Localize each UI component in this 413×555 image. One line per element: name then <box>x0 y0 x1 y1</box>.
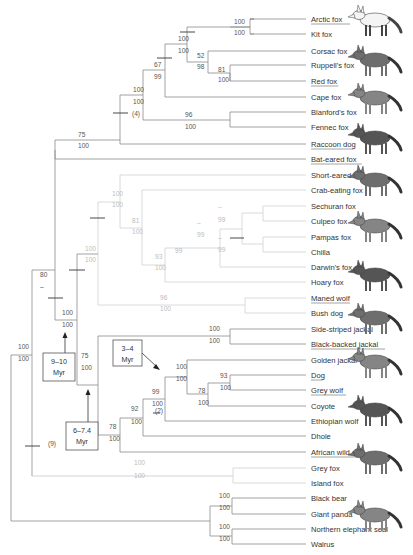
calibration-ticks <box>25 32 244 446</box>
taxon-label: Coyote <box>311 402 335 411</box>
bootstrap-value: 100 <box>85 256 96 263</box>
bootstrap-value: – <box>218 234 222 241</box>
taxon-label: Ethiopian wolf <box>311 417 359 426</box>
bootstrap-value: 99 <box>218 216 226 223</box>
date-unit: Myr <box>76 437 89 446</box>
bootstrap-value: 93 <box>155 253 163 260</box>
taxon-label: Northern elephant seal <box>311 525 388 534</box>
bootstrap-value: 100 <box>109 435 120 442</box>
bootstrap-value: 75 <box>78 131 86 138</box>
bat-eared-fox-illustration <box>348 123 401 154</box>
taxon-label: Dhole <box>311 432 331 441</box>
date-boxes: 9–10Myr6–7.4Myr3–4Myr <box>43 340 142 450</box>
bootstrap-value: 96 <box>160 294 168 301</box>
taxon-label: Culpeo fox <box>311 217 348 226</box>
taxon-label: Walrus <box>311 540 335 549</box>
bootstrap-value: 100 <box>209 325 220 332</box>
bootstrap-value: 100 <box>234 18 245 25</box>
taxon-label: Arctic fox <box>311 15 342 24</box>
bootstrap-value: 78 <box>109 423 117 430</box>
bootstrap-value: 99 <box>152 388 160 395</box>
taxon-label: Grey fox <box>311 464 340 473</box>
taxon-label: Bush dog <box>311 309 343 318</box>
date-range: 3–4 <box>122 344 134 353</box>
bootstrap-value: 100 <box>112 190 123 197</box>
bootstrap-value: 100 <box>219 504 230 511</box>
bootstrap-value: – <box>40 283 44 290</box>
taxon-label: Crab-eating fox <box>311 186 363 195</box>
bootstrap-value: 100 <box>160 305 171 312</box>
bootstrap-value: 92 <box>131 405 139 412</box>
taxon-label: Chilla <box>311 248 331 257</box>
bootstrap-value: 78 <box>198 387 206 394</box>
bootstrap-value: 52 <box>197 52 205 59</box>
bootstrap-value: 100 <box>234 29 245 36</box>
bootstrap-value: 100 <box>134 472 145 479</box>
bootstrap-value: 99 <box>218 246 226 253</box>
red-fox-illustration <box>348 45 401 76</box>
taxon-label: Bat-eared fox <box>311 155 357 164</box>
bootstrap-value: 67 <box>154 61 162 68</box>
bootstrap-value: (9) <box>48 440 56 448</box>
date-range: 9–10 <box>51 357 67 366</box>
bootstrap-value: 100 <box>209 337 220 344</box>
taxon-label: Pampas fox <box>311 233 351 242</box>
bootstrap-value: 100 <box>220 384 231 391</box>
animal-illustrations <box>348 5 401 531</box>
bootstrap-value: 100 <box>133 98 144 105</box>
bootstrap-value: 100 <box>219 523 230 530</box>
date-range: 6–7.4 <box>73 426 91 435</box>
taxon-label: Red fox <box>311 77 337 86</box>
taxon-label: Grey wolf <box>311 386 344 395</box>
bootstrap-value: 100 <box>62 309 73 316</box>
taxon-label: Black-backed jackal <box>311 340 378 349</box>
date-unit: Myr <box>53 368 66 377</box>
taxon-label: Sechuran fox <box>311 202 356 211</box>
divergence-date-box: 6–7.4Myr <box>66 422 98 450</box>
bootstrap-value: – <box>218 203 222 210</box>
bootstrap-value: 100 <box>78 142 89 149</box>
taxon-label: Giant panda <box>311 510 353 519</box>
taxon-label: Black bear <box>311 494 347 503</box>
bootstrap-value: 100 <box>132 228 143 235</box>
divergence-date-box: 9–10Myr <box>43 353 75 381</box>
bootstrap-value: 100 <box>133 86 144 93</box>
taxon-label: Island fox <box>311 479 344 488</box>
tree-branches <box>11 19 306 544</box>
bootstrap-value: 100 <box>218 76 229 83</box>
bootstrap-value: 98 <box>197 63 205 70</box>
bootstrap-value: 100 <box>112 201 123 208</box>
bootstrap-value: 100 <box>176 375 187 382</box>
bush-dog-illustration <box>348 260 401 291</box>
taxon-label: Ruppell's fox <box>311 61 354 70</box>
bootstrap-value: 99 <box>175 247 183 254</box>
bootstrap-value: 100 <box>198 399 209 406</box>
taxon-label: Side-striped jackal <box>311 325 373 334</box>
bootstrap-value: 100 <box>18 343 29 350</box>
bootstrap-value: 100 <box>155 264 166 271</box>
taxon-label: Blanford's fox <box>311 108 357 117</box>
bootstrap-value: 100 <box>62 321 73 328</box>
bootstrap-value: 99 <box>197 231 205 238</box>
taxon-label: Dog <box>311 371 325 380</box>
taxon-label: Maned wolf <box>311 294 351 303</box>
bootstrap-value: 100 <box>219 492 230 499</box>
bootstrap-value: 100 <box>85 245 96 252</box>
bootstrap-value: 100 <box>178 35 189 42</box>
bootstrap-value: 100 <box>131 418 142 425</box>
divergence-date-box: 3–4Myr <box>113 340 142 366</box>
bootstrap-value: 100 <box>134 459 145 466</box>
taxon-label: Hoary fox <box>311 278 344 287</box>
date-unit: Myr <box>122 355 135 364</box>
bootstrap-value: – <box>197 219 201 226</box>
bootstrap-value: 80 <box>40 271 48 278</box>
bootstrap-value: (2) <box>155 407 163 415</box>
bootstrap-value: 81 <box>218 66 226 73</box>
phylogenetic-tree: 9–10Myr6–7.4Myr3–4Myr 100100100100529881… <box>0 0 413 555</box>
bootstrap-value: 100 <box>185 123 196 130</box>
maned-wolf-illustration <box>348 211 401 242</box>
taxon-label: Cape fox <box>311 93 342 102</box>
taxon-label: Raccoon dog <box>311 140 356 149</box>
bootstrap-value: 93 <box>220 372 228 379</box>
bootstrap-value: 100 <box>178 47 189 54</box>
